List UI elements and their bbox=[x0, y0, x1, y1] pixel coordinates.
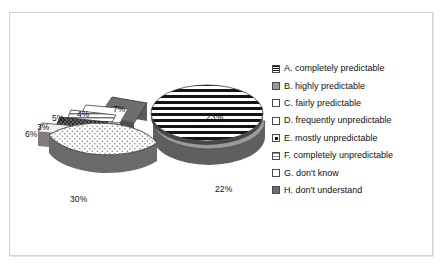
legend-swatch-dot-icon bbox=[272, 134, 280, 142]
legend-item-f[interactable]: F. completely unpredictable bbox=[272, 147, 432, 164]
legend-label-c: C. fairly predictable bbox=[284, 99, 361, 108]
legend-label-b: B. highly predictable bbox=[284, 82, 365, 91]
legend-item-h[interactable]: H. don't understand bbox=[272, 182, 432, 199]
pie-slice-C bbox=[49, 123, 157, 173]
legend-label-g: G. don't know bbox=[284, 169, 339, 178]
legend-label-d: D. frequently unpredictable bbox=[284, 116, 392, 125]
legend-item-a[interactable]: A. completely predictable bbox=[272, 60, 432, 77]
legend-item-g[interactable]: G. don't know bbox=[272, 164, 432, 181]
data-label-f: 5% bbox=[52, 114, 65, 123]
legend-swatch-white-icon bbox=[272, 117, 280, 125]
pie-chart-graphic bbox=[16, 65, 268, 195]
legend-item-d[interactable]: D. frequently unpredictable bbox=[272, 112, 432, 129]
legend-swatch-dark-icon bbox=[272, 186, 280, 194]
legend-label-e: E. mostly unpredictable bbox=[284, 134, 378, 143]
legend-swatch-gray-icon bbox=[272, 82, 280, 90]
legend-swatch-fine-stripe-icon bbox=[272, 152, 280, 160]
data-label-e: 3% bbox=[37, 123, 50, 132]
legend-swatch-white-icon bbox=[272, 169, 280, 177]
figure-caption bbox=[8, 271, 438, 280]
screenshot-root: 23% 22% 30% 6% 3% 5% 4% 7% A. completely… bbox=[0, 0, 447, 280]
chart-panel: 23% 22% 30% 6% 3% 5% 4% 7% A. completely… bbox=[9, 12, 433, 256]
legend-item-e[interactable]: E. mostly unpredictable bbox=[272, 130, 432, 147]
data-label-d: 6% bbox=[25, 130, 38, 139]
legend-item-b[interactable]: B. highly predictable bbox=[272, 77, 432, 94]
legend-swatch-white-icon bbox=[272, 99, 280, 107]
chart-legend: A. completely predictable B. highly pred… bbox=[272, 60, 432, 199]
data-label-g: 4% bbox=[77, 110, 90, 119]
data-label-a: 23% bbox=[206, 113, 223, 122]
legend-label-f: F. completely unpredictable bbox=[284, 151, 393, 160]
data-label-b: 22% bbox=[215, 185, 232, 194]
legend-swatch-hstripe-icon bbox=[272, 65, 280, 73]
legend-label-h: H. don't understand bbox=[284, 186, 362, 195]
data-label-h: 7% bbox=[113, 105, 126, 114]
legend-label-a: A. completely predictable bbox=[284, 64, 385, 73]
legend-item-c[interactable]: C. fairly predictable bbox=[272, 95, 432, 112]
pie-plot-area: 23% 22% 30% 6% 3% 5% 4% 7% bbox=[10, 13, 276, 257]
data-label-c: 30% bbox=[70, 195, 87, 204]
